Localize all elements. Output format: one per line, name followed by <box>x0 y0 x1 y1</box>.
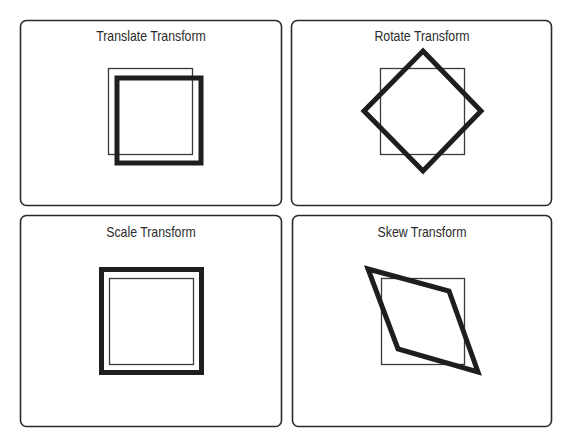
panel-title: Rotate Transform <box>374 28 469 44</box>
original-square <box>110 279 194 365</box>
panel-title: Translate Transform <box>96 28 206 44</box>
panel-title: Scale Transform <box>106 224 196 240</box>
panel-title: Skew Transform <box>378 224 467 240</box>
scaled-square <box>102 270 202 373</box>
panel-translate: Translate Transform <box>21 21 282 206</box>
panel-frame <box>293 216 552 427</box>
panel-rotate: Rotate Transform <box>292 21 552 206</box>
panel-frame <box>292 21 552 206</box>
panel-frame <box>21 216 282 427</box>
original-square <box>109 69 193 155</box>
transform-diagram: Translate Transform Rotate Transform Sca… <box>0 0 566 442</box>
panel-frame <box>21 21 282 206</box>
skewed-square <box>368 269 478 372</box>
panel-skew: Skew Transform <box>293 216 552 427</box>
original-square <box>382 279 465 365</box>
translated-square <box>117 78 201 163</box>
panel-scale: Scale Transform <box>21 216 282 427</box>
